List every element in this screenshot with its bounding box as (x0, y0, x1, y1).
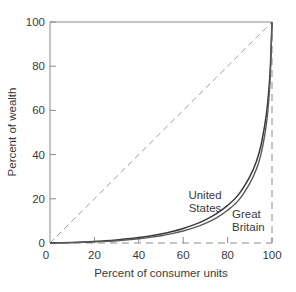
y-tick-label-100: 100 (26, 16, 45, 28)
united-states-label-line2: States (189, 202, 222, 214)
x-tick-label-0: 0 (43, 249, 49, 261)
great-britain-label-line2: Britain (232, 221, 265, 233)
great-britain-label-line1: Great (232, 208, 262, 220)
y-axis-ticks (50, 22, 56, 243)
united-states-label-line1: United (188, 189, 221, 201)
x-axis-title: Percent of consumer units (94, 267, 228, 279)
x-tick-label-60: 60 (177, 249, 190, 261)
y-tick-label-40: 40 (32, 149, 45, 161)
y-tick-label-60: 60 (32, 104, 45, 116)
x-tick-label-100: 100 (262, 249, 281, 261)
y-tick-label-80: 80 (32, 60, 45, 72)
y-axis-title: Percent of wealth (6, 88, 18, 177)
y-tick-label-0: 0 (39, 237, 45, 249)
chart-canvas: 0 20 40 60 80 100 0 20 40 60 80 100 Perc… (0, 0, 296, 292)
y-tick-label-20: 20 (32, 193, 45, 205)
united-states-annotation: United States (188, 189, 221, 214)
x-tick-label-40: 40 (132, 249, 145, 261)
lorenz-curve-chart: 0 20 40 60 80 100 0 20 40 60 80 100 Perc… (0, 0, 296, 292)
x-tick-label-80: 80 (221, 249, 234, 261)
x-tick-label-20: 20 (88, 249, 101, 261)
great-britain-annotation: Great Britain (232, 208, 265, 233)
